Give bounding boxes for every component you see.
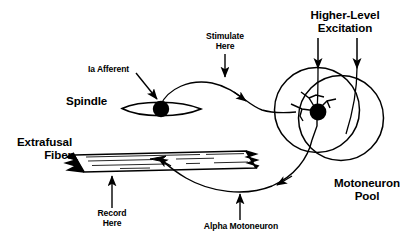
label-alpha-motoneuron: Alpha Motoneuron xyxy=(186,222,296,232)
label-stimulate-here: Stimulate Here xyxy=(191,32,259,51)
label-spindle: Spindle xyxy=(66,94,128,107)
motoneuron-soma-dot xyxy=(310,104,327,121)
arrow-to-spindle xyxy=(136,73,157,99)
arrow-along-ia-axon xyxy=(234,92,246,101)
label-ia-afferent: Ia Afferent xyxy=(88,65,148,75)
label-motoneuron-pool: Motoneuron Pool xyxy=(320,176,414,202)
pool-circle-overlap xyxy=(299,76,384,161)
neuroscience-diagram: Higher-Level Excitation Stimulate Here I… xyxy=(0,0,415,247)
excitation-fiber-left xyxy=(317,68,318,110)
label-record-here: Record Here xyxy=(80,209,144,228)
label-higher-level-excitation: Higher-Level Excitation xyxy=(283,8,407,34)
arrow-along-motor-axon xyxy=(277,176,292,185)
label-extrafusal-fiber: Extrafusal Fiber xyxy=(2,135,72,161)
